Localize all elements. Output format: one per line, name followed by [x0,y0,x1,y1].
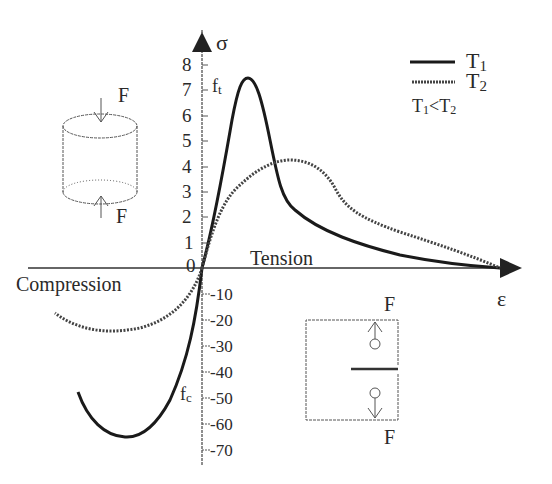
stress-strain-chart: ε σ 8 7 6 5 4 3 2 1 0 -10 -20 -30 -40 -5… [0,0,552,484]
compression-label: Compression [16,273,122,296]
specimen-force-bottom: F [384,426,395,448]
y-tick-label: 8 [182,54,192,75]
legend-note: T1<T2 [412,96,456,117]
y-ticks-negative: -10 -20 -30 -40 -50 -60 -70 [202,285,233,460]
y-axis-arrow-icon [192,32,212,52]
specimen-force-top: F [384,293,395,315]
y-tick-label: -10 [210,285,233,304]
x-axis-label: ε [497,286,506,311]
tension-specimen-diagram [306,320,398,420]
y-axis-label: σ [216,30,228,55]
y-tick-label: 5 [182,130,192,151]
series-t2-curve [202,160,500,268]
ft-annotation: ft [212,76,222,97]
y-tick-label: 2 [182,206,192,227]
y-tick-label: 3 [182,181,192,202]
y-tick-label: -30 [210,337,233,356]
y-tick-label: 1 [184,232,194,253]
tension-label: Tension [250,247,313,269]
legend: T1 T2 T1<T2 [410,48,487,117]
y-tick-label: -60 [210,415,233,434]
y-tick-label-zero: 0 [186,255,196,276]
y-tick-label: -50 [210,389,233,408]
cylinder-force-bottom: F [116,205,127,227]
y-tick-label: 6 [182,105,192,126]
y-tick-label: -20 [210,311,233,330]
y-tick-label: -40 [210,363,233,382]
fc-annotation: fc [180,384,192,405]
y-tick-label: -70 [210,441,233,460]
y-tick-label: 4 [182,156,192,177]
x-axis-arrow-icon [500,258,522,278]
cylinder-diagram [63,98,137,218]
cylinder-force-top: F [118,84,129,106]
y-ticks-positive: 8 7 6 5 4 3 2 1 0 [182,54,208,276]
y-tick-label: 7 [182,79,192,100]
